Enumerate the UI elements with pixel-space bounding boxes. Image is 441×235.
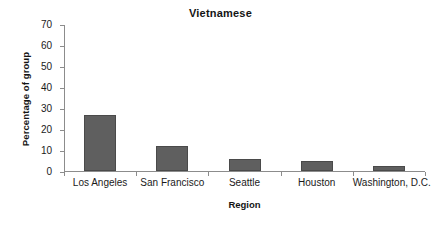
x-axis-tick: [425, 172, 426, 176]
bar: [301, 161, 333, 171]
x-axis-category-label: San Francisco: [136, 176, 208, 189]
y-axis-tick-label: 60: [41, 41, 52, 51]
y-axis-tick: 50: [60, 67, 64, 68]
y-axis-tick-label: 30: [41, 104, 52, 114]
y-axis-title: Percentage of group: [19, 51, 30, 145]
bar-chart: Vietnamese Percentage of group 010203040…: [0, 0, 441, 235]
y-axis-tick-label: 20: [41, 125, 52, 135]
y-axis-tick-label: 0: [46, 167, 52, 177]
x-axis-category-label: Los Angeles: [64, 176, 136, 189]
y-axis-tick: 70: [60, 25, 64, 26]
y-axis-tick-label: 40: [41, 83, 52, 93]
chart-title: Vietnamese: [0, 7, 441, 20]
y-axis-tick: 40: [60, 88, 64, 89]
y-axis-tick: 30: [60, 109, 64, 110]
x-axis-category-label: Seattle: [208, 176, 280, 189]
x-axis-category-label: Washington, D.C.: [353, 176, 425, 189]
bar: [373, 166, 405, 171]
y-axis-tick-label: 70: [41, 20, 52, 30]
x-axis-category-labels: Los AngelesSan FranciscoSeattleHoustonWa…: [64, 176, 425, 192]
y-axis-tick-label: 50: [41, 62, 52, 72]
bar: [156, 146, 188, 171]
x-axis-line: [64, 171, 425, 172]
y-axis-tick: 20: [60, 130, 64, 131]
x-axis-title: Region: [64, 199, 425, 211]
x-axis-category-label: Houston: [281, 176, 353, 189]
y-axis-tick: 60: [60, 46, 64, 47]
y-axis-tick: 10: [60, 151, 64, 152]
bar: [84, 115, 116, 171]
bar: [229, 159, 261, 171]
plot-area: 010203040506070: [64, 25, 425, 172]
y-axis-tick-label: 10: [41, 146, 52, 156]
y-axis-title-container: Percentage of group: [17, 25, 32, 172]
y-axis-line: [64, 25, 65, 172]
